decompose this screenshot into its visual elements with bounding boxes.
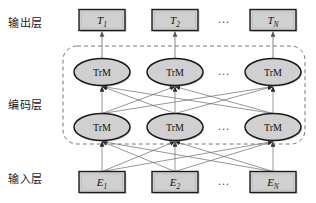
encoder-lower-node-label: TrM (93, 122, 111, 133)
output-node-group: T1T2TN (79, 10, 298, 33)
encoder-upper-node-label: TrM (264, 67, 282, 78)
edges-lower-to-upper-encoder (102, 87, 273, 114)
input-node-1[interactable]: E1 (79, 172, 127, 195)
input-node-3[interactable]: EN (250, 172, 298, 195)
output-node-3[interactable]: TN (250, 10, 298, 33)
encoder-upper-node-2[interactable]: TrM (147, 59, 204, 87)
edges-upper-encoder-to-output (102, 32, 273, 59)
encoder-upper-node-3[interactable]: TrM (245, 59, 302, 87)
encoder-upper-ellipsis: ... (218, 64, 230, 78)
encoder-upper-node-label: TrM (166, 67, 184, 78)
output-node-1[interactable]: T1 (79, 10, 127, 33)
edges-input-to-lower-encoder (102, 142, 273, 172)
encoder-lower-node-2[interactable]: TrM (147, 114, 204, 142)
encoder-lower-node-label: TrM (264, 122, 282, 133)
output-node-2[interactable]: T2 (152, 10, 200, 33)
encoder-upper-node-1[interactable]: TrM (74, 59, 131, 87)
encoder-upper-node-group: TrMTrMTrM (74, 59, 302, 87)
encoder-lower-ellipsis: ... (218, 119, 230, 133)
encoder-lower-node-3[interactable]: TrM (245, 114, 302, 142)
output-ellipsis: ... (218, 12, 230, 26)
encoder-lower-node-1[interactable]: TrM (74, 114, 131, 142)
input-ellipsis: ... (218, 174, 230, 188)
diagram-svg: T1T2TN TrMTrMTrM TrMTrMTrM E1E2EN ......… (0, 0, 316, 203)
encoder-lower-node-label: TrM (166, 122, 184, 133)
encoder-lower-node-group: TrMTrMTrM (74, 114, 302, 142)
diagram-canvas: 输出层 编码层 输入层 T1T2TN TrMTrMTrM TrMTrMTrM E… (0, 0, 316, 203)
input-node-2[interactable]: E2 (152, 172, 200, 195)
encoder-upper-node-label: TrM (93, 67, 111, 78)
input-node-group: E1E2EN (79, 172, 298, 195)
